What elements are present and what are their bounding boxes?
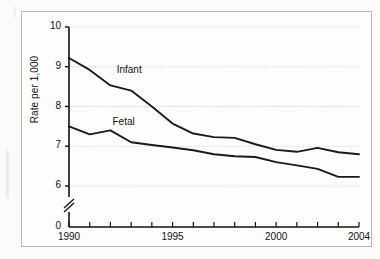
- chart-plot-area: Rate per 1,000 10 9 8 7 6 0 1990 1995 20…: [0, 0, 380, 259]
- y-tick-label-10: 10: [39, 20, 61, 31]
- x-tick-label-2000: 2000: [254, 231, 298, 242]
- y-tick-label-8: 8: [39, 100, 61, 111]
- y-tick-label-7: 7: [39, 139, 61, 150]
- x-tick-label-2004: 2004: [337, 231, 380, 242]
- x-tick-label-1995: 1995: [151, 231, 195, 242]
- y-axis-title: Rate per 1,000: [29, 30, 40, 150]
- series-label-fetal: Fetal: [113, 116, 135, 127]
- axis-spines: [64, 27, 359, 227]
- y-tick-label-6: 6: [39, 179, 61, 190]
- gridlines: [69, 27, 359, 186]
- x-tick-label-1990: 1990: [47, 231, 91, 242]
- y-tick-label-0: 0: [39, 220, 61, 231]
- y-tick-label-9: 9: [39, 60, 61, 71]
- series-label-infant: Infant: [117, 64, 142, 75]
